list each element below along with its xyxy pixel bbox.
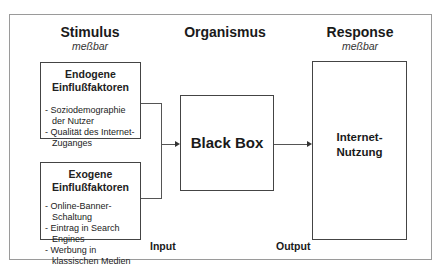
exogene-title-line1: Exogene [41,168,140,181]
exogene-factors-box: Exogene Einflußfaktoren Online-Banner-Sc… [40,162,141,240]
merge-connector [161,103,162,199]
internet-usage-line2: Nutzung [313,145,406,160]
endogene-factors-box: Endogene Einflußfaktoren Soziodemographi… [40,62,141,139]
organismus-heading: Organismus [170,24,280,40]
internet-usage-box: Internet- Nutzung [312,61,407,240]
endogene-connector [141,103,161,104]
list-item: Eintrag in Search Engines [45,223,140,245]
list-item: Soziodemographie der Nutzer [45,105,140,127]
list-item: Online-Banner-Schaltung [45,201,140,223]
list-item: Werbung in klassischen Medien [45,245,140,267]
exogene-title: Exogene Einflußfaktoren [41,168,140,194]
exogene-connector [141,198,161,199]
internet-usage-label: Internet- Nutzung [313,130,406,160]
response-subtitle: meßbar [310,40,410,52]
exogene-title-line2: Einflußfaktoren [41,181,140,194]
response-heading: Response [310,24,410,40]
stimulus-heading: Stimulus [40,24,140,40]
endogene-title-line1: Endogene [41,68,140,81]
list-item: Qualität des Internet-Zuganges [45,127,140,149]
internet-usage-line1: Internet- [313,130,406,145]
output-arrow-line [274,144,307,145]
exogene-factor-list: Online-Banner-Schaltung Eintrag in Searc… [45,201,140,267]
stimulus-subtitle: meßbar [40,40,140,52]
endogene-factor-list: Soziodemographie der Nutzer Qualität des… [45,105,140,149]
black-box-label: Black Box [181,134,273,151]
input-arrow-line [161,144,175,145]
endogene-title: Endogene Einflußfaktoren [41,68,140,94]
output-label: Output [276,240,310,252]
black-box: Black Box [180,95,274,191]
endogene-title-line2: Einflußfaktoren [41,81,140,94]
input-label: Input [150,240,176,252]
